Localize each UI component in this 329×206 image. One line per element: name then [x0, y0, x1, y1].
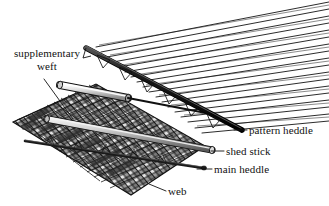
label-supplementary-weft: supplementary weft — [4, 47, 90, 72]
label-main-heddle: main heddle — [214, 163, 269, 176]
diagram-artwork — [0, 0, 329, 206]
label-pattern-heddle: pattern heddle — [249, 124, 313, 137]
label-supplementary-weft-line1: supplementary — [14, 47, 80, 59]
web-cloth — [13, 84, 205, 195]
web-leader — [149, 184, 166, 191]
label-shed-stick: shed stick — [226, 145, 271, 158]
label-supplementary-weft-line2: weft — [37, 60, 57, 72]
loom-diagram-figure: supplementary weft pattern heddle shed s… — [0, 0, 329, 206]
label-web: web — [168, 185, 187, 198]
